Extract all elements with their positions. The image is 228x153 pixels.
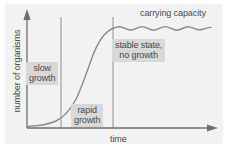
y-axis-label: number of organisms <box>12 17 22 125</box>
annotation-stable-state-line2: no growth <box>115 50 162 60</box>
annotation-rapid-growth-line1: rapid <box>74 105 100 115</box>
annotation-stable-state: stable state, no growth <box>112 39 165 62</box>
annotation-slow-growth-line1: slow <box>29 63 55 73</box>
annotation-carrying-capacity: carrying capacity <box>140 8 206 18</box>
x-axis-label: time <box>110 134 127 144</box>
annotation-rapid-growth-line2: growth <box>74 115 100 125</box>
annotation-stable-state-line1: stable state, <box>115 40 162 50</box>
annotation-slow-growth: slow growth <box>26 62 58 85</box>
y-axis-arrowhead <box>23 9 30 20</box>
x-axis-arrowhead <box>207 124 218 131</box>
annotation-rapid-growth: rapid growth <box>71 104 103 127</box>
annotation-slow-growth-line2: growth <box>29 73 55 83</box>
population-growth-figure: number of organisms time slow growth rap… <box>0 0 228 153</box>
